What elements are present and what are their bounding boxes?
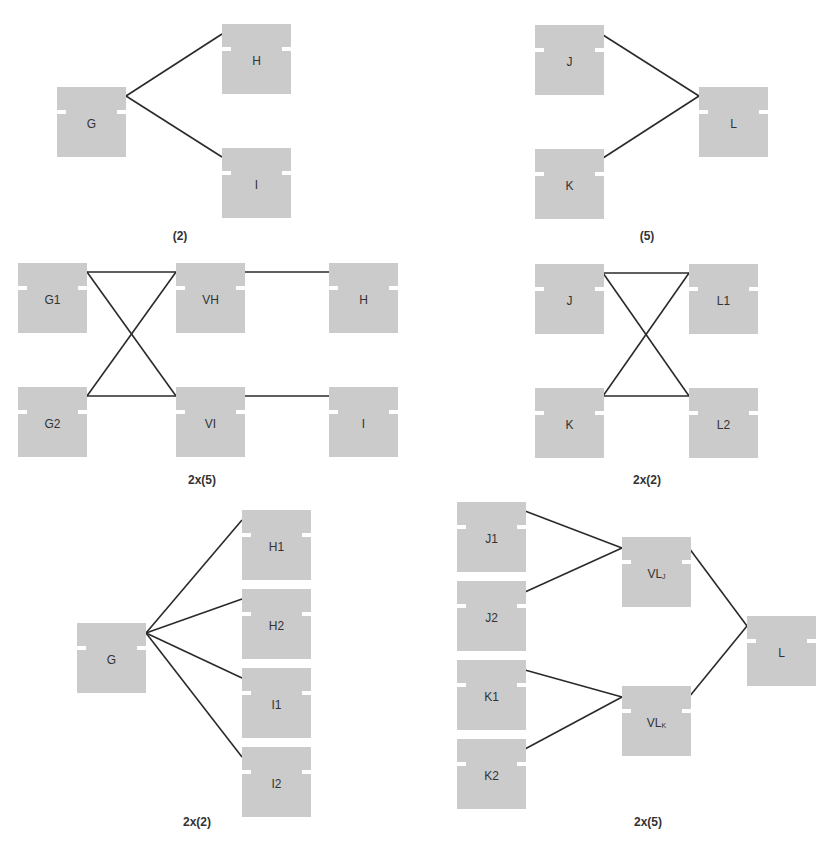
node-l[interactable]: L [747,616,816,686]
edge-g-h [126,34,222,96]
node-label: K1 [457,690,526,704]
edge-g-i [126,96,222,157]
port-notch-left [747,639,756,643]
node-vi[interactable]: VI [176,387,245,457]
node-i1[interactable]: I1 [242,668,311,738]
node-g2[interactable]: G2 [18,387,87,457]
port-notch-left [535,287,544,291]
edge-g-h1 [146,520,242,633]
node-label: G1 [18,293,87,307]
edge-vlj-l [689,548,747,626]
port-notch-left [689,411,698,415]
panel-caption: 2x(2) [183,815,211,829]
node-label-text: J [567,55,573,69]
port-notch-right [78,286,87,290]
node-g[interactable]: G [77,623,146,693]
port-notch-left [242,533,251,537]
node-l1[interactable]: L1 [689,264,758,334]
node-k[interactable]: K [535,388,604,458]
edge-j1-vlj [525,511,622,548]
port-notch-left [535,172,544,176]
node-g1[interactable]: G1 [18,263,87,333]
node-label-text: I [255,178,258,192]
port-notch-left [457,683,466,687]
port-notch-right [595,48,604,52]
node-label: L [699,117,768,131]
node-label-text: K [565,179,573,193]
node-k[interactable]: K [535,149,604,219]
node-i[interactable]: I [329,387,398,457]
port-notch-right [517,604,526,608]
port-notch-right [389,286,398,290]
port-notch-left [689,287,698,291]
port-notch-right [595,172,604,176]
port-notch-right [302,533,311,537]
port-notch-left [222,171,231,175]
node-label: G [77,653,146,667]
edge-g-i2 [146,633,242,757]
port-notch-left [457,604,466,608]
node-label-text: I2 [271,777,281,791]
port-notch-right [682,560,691,564]
edge-g-h2 [146,599,242,633]
node-label: J1 [457,532,526,546]
edge-g2-vh [87,272,176,396]
port-notch-right [282,171,291,175]
node-g[interactable]: G [57,87,126,157]
node-label: VH [176,293,245,307]
node-label-text: L [730,117,737,131]
port-notch-left [457,762,466,766]
edge-j-l [603,35,699,96]
port-notch-right [137,646,146,650]
node-j2[interactable]: J2 [457,581,526,651]
port-notch-right [78,410,87,414]
port-notch-left [176,410,185,414]
node-label-text: G [107,653,116,667]
node-h2[interactable]: H2 [242,589,311,659]
node-l2[interactable]: L2 [689,388,758,458]
node-i[interactable]: I [222,148,291,218]
node-h[interactable]: H [329,263,398,333]
node-label: L2 [689,418,758,432]
port-notch-left [622,709,631,713]
port-notch-right [236,286,245,290]
node-vlk[interactable]: VLK [622,686,691,756]
port-notch-right [302,612,311,616]
node-label-text: J2 [485,611,498,625]
port-notch-right [517,525,526,529]
node-label-text: G [87,117,96,131]
node-vlj[interactable]: VLJ [622,537,691,607]
node-j[interactable]: J [535,25,604,95]
panel-caption: (5) [640,229,655,243]
node-h1[interactable]: H1 [242,510,311,580]
node-j[interactable]: J [535,264,604,334]
node-h[interactable]: H [222,24,291,94]
edge-j2-vlj [525,548,622,592]
node-label: I [329,417,398,431]
node-vh[interactable]: VH [176,263,245,333]
node-k2[interactable]: K2 [457,739,526,809]
node-label-text: H1 [269,540,284,554]
node-label: J [535,55,604,69]
node-label-text: L1 [717,294,730,308]
node-i2[interactable]: I2 [242,747,311,817]
node-label: H [222,54,291,68]
node-label-text: H [359,293,368,307]
port-notch-left [329,286,338,290]
node-label: L1 [689,294,758,308]
port-notch-left [535,48,544,52]
port-notch-right [302,691,311,695]
port-notch-left [242,612,251,616]
node-label: VLJ [622,567,691,583]
port-notch-left [222,47,231,51]
node-j1[interactable]: J1 [457,502,526,572]
node-k1[interactable]: K1 [457,660,526,730]
edge-k1-vlk [525,670,622,697]
edge-j-l2 [603,273,689,396]
edge-k-l1 [603,273,689,396]
node-l[interactable]: L [699,87,768,157]
node-label-text: J [567,294,573,308]
node-label-text: H2 [269,619,284,633]
panel-caption: 2x(2) [633,473,661,487]
node-label: H [329,293,398,307]
